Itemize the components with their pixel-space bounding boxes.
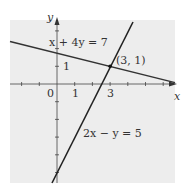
system-of-equations-graph: y x 0 1 3 1 x + 4y = 7 2x − y = 5 (3, 1) — [0, 0, 191, 191]
origin-label: 0 — [47, 87, 54, 100]
x-tick-label-3: 3 — [107, 87, 114, 100]
intersection-label: (3, 1) — [116, 54, 146, 67]
y-axis-label: y — [46, 11, 54, 24]
intersection-point — [108, 65, 112, 69]
x-tick-label-1: 1 — [72, 87, 79, 100]
equation-label-x-plus-4y: x + 4y = 7 — [49, 36, 108, 49]
y-tick-label-1: 1 — [63, 60, 70, 73]
equation-label-2x-minus-y: 2x − y = 5 — [83, 127, 142, 140]
x-axis-label: x — [174, 90, 181, 103]
